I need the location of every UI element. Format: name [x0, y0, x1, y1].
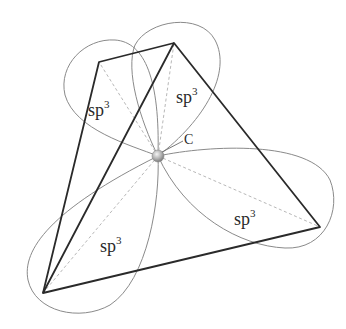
orbital-lobe-lower-left — [27, 156, 158, 313]
orbital-label-lower-right: sp3 — [234, 207, 256, 229]
sp3-tetrahedron-diagram: C sp3 sp3 sp3 sp3 — [0, 0, 346, 329]
carbon-label: C — [184, 132, 193, 147]
orbital-label-upper-right: sp3 — [176, 85, 198, 107]
orbital-label-upper-left: sp3 — [88, 98, 110, 120]
orbital-lobe-lower-right — [158, 148, 334, 248]
orbital-label-lower-left: sp3 — [100, 234, 122, 256]
tetrahedron-front-face — [43, 43, 320, 293]
carbon-label-leader — [162, 141, 183, 152]
orbital-lobe-upper-left — [64, 40, 158, 156]
